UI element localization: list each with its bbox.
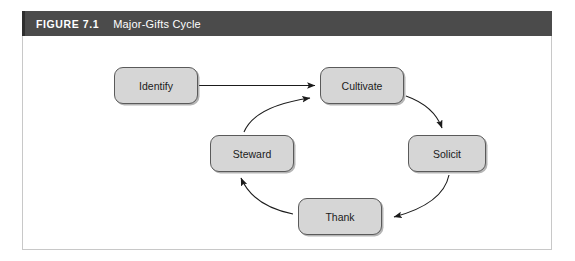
- arrow-steward-to-cultivate: [244, 98, 310, 132]
- figure-container: FIGURE 7.1 Major-Gifts Cycle Identify: [22, 11, 552, 250]
- cycle-diagram: Identify Cultivate Solicit Thank Steward: [23, 36, 553, 250]
- arrow-thank-to-steward: [241, 178, 293, 214]
- node-identify-label: Identify: [139, 80, 173, 92]
- node-thank[interactable]: Thank: [298, 198, 382, 235]
- figure-header-bar: FIGURE 7.1 Major-Gifts Cycle: [22, 11, 552, 36]
- node-steward-label: Steward: [233, 148, 272, 160]
- node-identify[interactable]: Identify: [114, 67, 198, 104]
- figure-title-label: Major-Gifts Cycle: [113, 18, 201, 30]
- node-solicit-label: Solicit: [433, 148, 461, 160]
- node-thank-label: Thank: [325, 211, 354, 223]
- arrow-solicit-to-thank: [394, 175, 449, 217]
- node-cultivate[interactable]: Cultivate: [320, 67, 404, 104]
- node-solicit[interactable]: Solicit: [408, 135, 486, 172]
- figure-body-panel: Identify Cultivate Solicit Thank Steward: [22, 36, 552, 250]
- node-cultivate-label: Cultivate: [342, 80, 383, 92]
- node-steward[interactable]: Steward: [210, 135, 294, 172]
- figure-number-label: FIGURE 7.1: [36, 18, 99, 30]
- arrow-cultivate-to-solicit: [406, 96, 442, 128]
